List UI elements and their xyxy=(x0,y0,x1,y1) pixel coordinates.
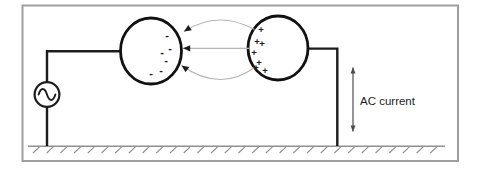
negative-charge-symbol: - xyxy=(159,64,163,76)
negative-charge-symbol: - xyxy=(149,67,153,79)
positive-charge-symbol: + xyxy=(259,38,265,49)
figure-antenna-diagram: ------ +++++++ AC current xyxy=(0,0,480,174)
negative-charge-symbol: - xyxy=(165,29,169,41)
positive-charge-symbol: + xyxy=(253,62,259,73)
ac-current-label: AC current xyxy=(360,95,416,107)
figure-border xyxy=(23,6,459,162)
positive-charge-symbol: + xyxy=(262,65,268,76)
negative-charge-symbol: - xyxy=(168,42,172,54)
negative-charge-symbol: - xyxy=(164,54,168,66)
diagram-canvas: ------ +++++++ AC current xyxy=(0,0,480,174)
positive-charge-symbol: + xyxy=(258,24,264,35)
